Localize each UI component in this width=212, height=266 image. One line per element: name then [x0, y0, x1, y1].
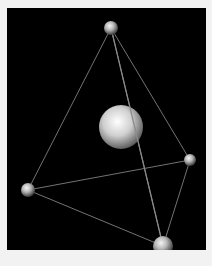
center-sphere-circle — [99, 105, 143, 149]
vertex-sphere-top — [104, 21, 118, 35]
vertex-sphere-bottom — [153, 236, 173, 250]
vertex-sphere-left — [21, 183, 35, 197]
edge-top-left — [28, 28, 111, 190]
tetrahedron-scene — [7, 8, 206, 250]
edge-left-right — [28, 160, 190, 190]
vertex-sphere-right — [184, 154, 196, 166]
edge-right-bottom — [163, 160, 190, 246]
edge-left-bottom — [28, 190, 163, 246]
tetrahedron-svg — [7, 8, 206, 250]
